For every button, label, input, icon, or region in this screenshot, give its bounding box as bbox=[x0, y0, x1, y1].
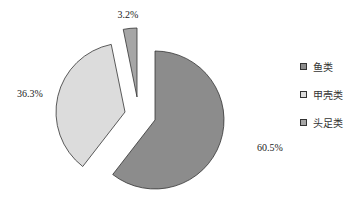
legend: 鱼类 甲壳类 头足类 bbox=[300, 60, 343, 144]
legend-swatch bbox=[300, 63, 307, 70]
legend-label: 鱼类 bbox=[313, 59, 333, 74]
legend-swatch bbox=[300, 91, 307, 98]
legend-label: 头足类 bbox=[313, 115, 343, 130]
legend-item-cephalopod: 头足类 bbox=[300, 116, 343, 128]
pie-slice bbox=[56, 44, 125, 166]
legend-label: 甲壳类 bbox=[313, 87, 343, 102]
slice-percent-label: 60.5% bbox=[257, 142, 283, 153]
legend-item-fish: 鱼类 bbox=[300, 60, 343, 72]
legend-swatch bbox=[300, 119, 307, 126]
slice-percent-label: 3.2% bbox=[118, 9, 139, 20]
legend-item-crustacean: 甲壳类 bbox=[300, 88, 343, 100]
pie-slice bbox=[123, 28, 137, 97]
slice-percent-label: 36.3% bbox=[17, 88, 43, 99]
pie-slice bbox=[113, 51, 224, 189]
